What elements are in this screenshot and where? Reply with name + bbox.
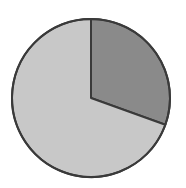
pie-chart [0, 0, 186, 188]
pie-chart-canvas [0, 0, 186, 188]
